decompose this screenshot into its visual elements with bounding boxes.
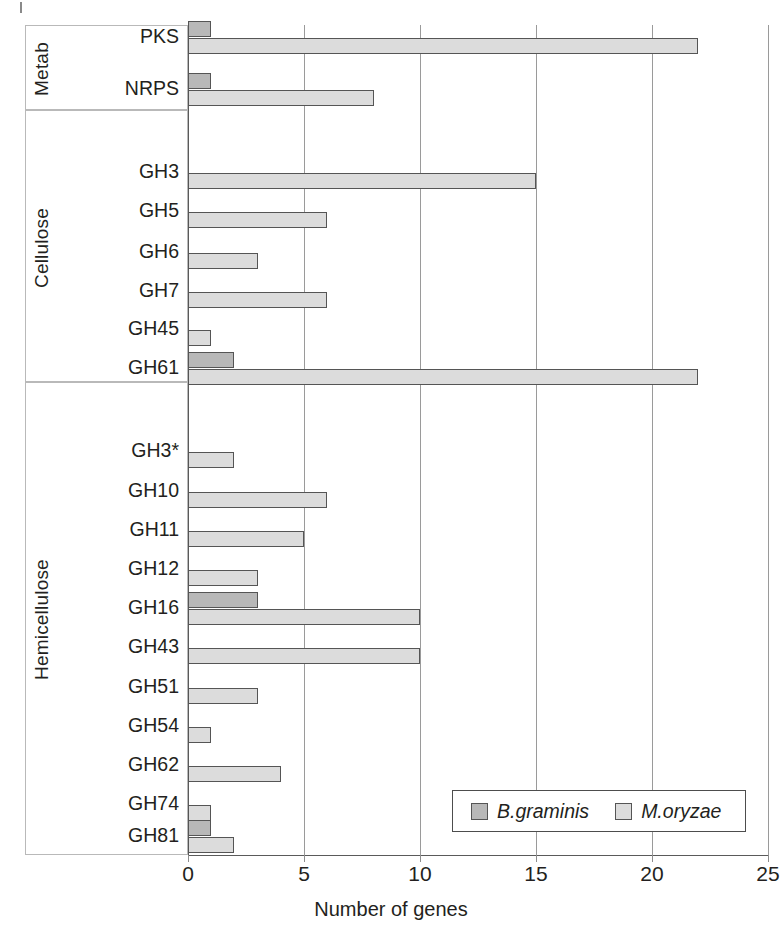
tick-mark-15 — [536, 855, 537, 862]
row-label-gh3: GH3 — [0, 162, 188, 182]
bar-gh61-b-graminis — [188, 352, 234, 368]
bar-gh3-star-m-oryzae — [188, 452, 234, 468]
tick-mark-20 — [652, 855, 653, 862]
bar-gh81-m-oryzae — [188, 837, 234, 853]
row-label-gh12: GH12 — [0, 559, 188, 579]
bar-chart-figure: Metab Cellulose Hemicellulose PKSNRPSGH3… — [0, 0, 782, 948]
row-label-gh5: GH5 — [0, 201, 188, 221]
bar-gh10-m-oryzae — [188, 492, 327, 508]
bar-gh6-m-oryzae — [188, 253, 258, 269]
x-axis-label: Number of genes — [0, 898, 782, 921]
chart-legend: B.graminis M.oryzae — [452, 790, 746, 832]
tick-mark-0 — [188, 855, 189, 862]
row-label-gh43: GH43 — [0, 637, 188, 657]
legend-swatch-m-oryzae-icon — [615, 803, 632, 820]
bar-gh43-m-oryzae — [188, 648, 420, 664]
page-corner-artifact — [20, 2, 22, 13]
tick-mark-10 — [420, 855, 421, 862]
bar-gh51-m-oryzae — [188, 688, 258, 704]
tick-label-5: 5 — [274, 862, 334, 886]
tick-label-20: 20 — [622, 862, 682, 886]
row-label-gh74: GH74 — [0, 794, 188, 814]
row-label-gh16: GH16 — [0, 598, 188, 618]
gridline-20 — [652, 25, 653, 855]
row-label-pks: PKS — [0, 27, 188, 47]
row-label-gh3-star: GH3* — [0, 441, 188, 461]
row-label-gh54: GH54 — [0, 716, 188, 736]
tick-label-25: 25 — [738, 862, 782, 886]
bar-gh12-m-oryzae — [188, 570, 258, 586]
bar-gh45-m-oryzae — [188, 330, 211, 346]
gridline-5 — [304, 25, 305, 855]
row-label-gh11: GH11 — [0, 520, 188, 540]
legend-item-b-graminis: B.graminis — [471, 800, 589, 823]
bar-nrps-m-oryzae — [188, 90, 374, 106]
bar-gh54-m-oryzae — [188, 727, 211, 743]
bar-gh74-m-oryzae — [188, 805, 211, 821]
tick-mark-5 — [304, 855, 305, 862]
bar-gh16-m-oryzae — [188, 609, 420, 625]
row-label-gh81: GH81 — [0, 826, 188, 846]
bar-gh61-m-oryzae — [188, 369, 698, 385]
bar-pks-b-graminis — [188, 21, 211, 37]
bar-gh62-m-oryzae — [188, 766, 281, 782]
legend-item-m-oryzae: M.oryzae — [615, 800, 721, 823]
row-label-gh62: GH62 — [0, 755, 188, 775]
bar-gh3-m-oryzae — [188, 173, 536, 189]
row-label-gh61: GH61 — [0, 358, 188, 378]
tick-label-10: 10 — [390, 862, 450, 886]
bar-gh81-b-graminis — [188, 820, 211, 836]
row-label-gh7: GH7 — [0, 281, 188, 301]
legend-label-b-graminis: B.graminis — [497, 800, 589, 823]
bar-nrps-b-graminis — [188, 73, 211, 89]
plot-area — [188, 25, 768, 855]
row-label-nrps: NRPS — [0, 79, 188, 99]
tick-mark-25 — [768, 855, 769, 862]
bar-gh7-m-oryzae — [188, 292, 327, 308]
row-label-gh6: GH6 — [0, 242, 188, 262]
x-axis-line — [188, 855, 769, 856]
legend-label-m-oryzae: M.oryzae — [641, 800, 721, 823]
bar-gh5-m-oryzae — [188, 212, 327, 228]
row-label-gh10: GH10 — [0, 481, 188, 501]
tick-label-0: 0 — [158, 862, 218, 886]
bar-pks-m-oryzae — [188, 38, 698, 54]
gridline-15 — [536, 25, 537, 855]
row-label-gh45: GH45 — [0, 319, 188, 339]
legend-swatch-b-graminis-icon — [471, 803, 488, 820]
gridline-10 — [420, 25, 421, 855]
tick-label-15: 15 — [506, 862, 566, 886]
gridline-25 — [768, 25, 769, 855]
bar-gh11-m-oryzae — [188, 531, 304, 547]
bar-gh16-b-graminis — [188, 592, 258, 608]
row-label-gh51: GH51 — [0, 677, 188, 697]
